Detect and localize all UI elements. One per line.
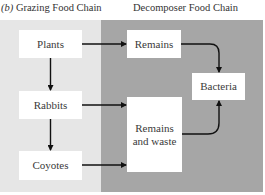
node-remains: Remains <box>127 30 181 58</box>
grazing-title-text: Grazing Food Chain <box>16 2 102 13</box>
node-bacteria: Bacteria <box>192 73 245 100</box>
node-plants: Plants <box>19 30 82 58</box>
remains-waste-line1: Remains <box>135 122 174 135</box>
node-coyotes: Coyotes <box>19 151 82 180</box>
decomposer-panel <box>101 20 263 192</box>
decomposer-chain-title: Decomposer Food Chain <box>133 2 238 13</box>
node-remains-and-waste: Remains and waste <box>127 97 182 172</box>
remains-waste-line2: and waste <box>133 135 177 148</box>
figure-label: (b) <box>1 2 13 13</box>
node-rabbits: Rabbits <box>19 91 82 119</box>
grazing-chain-title: (b) Grazing Food Chain <box>1 2 102 13</box>
